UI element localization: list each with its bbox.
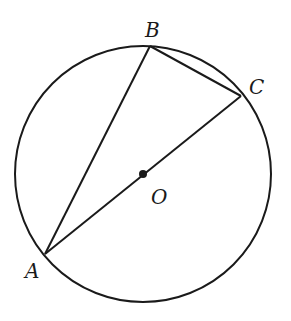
label-b: B	[144, 18, 160, 42]
label-a: A	[23, 259, 39, 283]
segment-bc	[150, 46, 241, 96]
label-o: O	[151, 185, 167, 209]
geometry-diagram: B C O A	[0, 0, 291, 321]
center-point-o	[139, 170, 147, 178]
label-c: C	[249, 75, 264, 99]
